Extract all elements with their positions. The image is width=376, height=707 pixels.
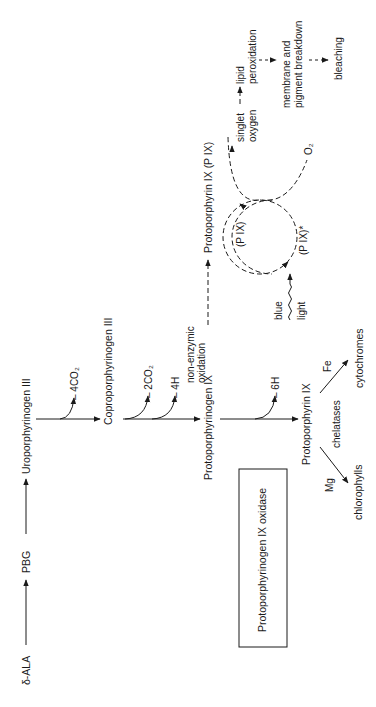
label-blue: blue xyxy=(273,301,284,320)
label-chelatases: chelatases xyxy=(331,400,342,448)
node-ala: δ-ALA xyxy=(20,656,32,685)
arrow-2co2-out xyxy=(125,396,148,419)
node-singlet: singlet xyxy=(235,113,246,142)
node-coproporphyrinogen: Coproporphyrinogen III xyxy=(102,318,114,425)
label-light: light xyxy=(296,301,307,320)
arrow-4co2-out xyxy=(60,398,74,419)
node-uroporphyrinogen: Uroporphyrinogen III xyxy=(20,378,32,474)
node-oxygen: oxygen xyxy=(247,110,258,142)
label-fe: Fe xyxy=(322,360,333,372)
node-pigment-breakdown: pigment breakdown xyxy=(293,21,304,108)
enzyme-box-label: Protoporphyrinogen IX oxidase xyxy=(256,488,268,632)
cycle-o2-arc-2 xyxy=(260,160,307,201)
node-chlorophylls: chlorophylls xyxy=(352,465,364,520)
node-protoporphyrin-pix: Protoporphyrin IX (P IX) xyxy=(202,142,214,253)
label-2co2: – 2CO₂ xyxy=(143,365,154,398)
label-non-enzymic: non-enzymic xyxy=(185,326,196,383)
arrow-mg-chlorophylls xyxy=(320,447,348,483)
cycle-o2-arc xyxy=(228,137,260,200)
label-mg: Mg xyxy=(324,478,335,492)
node-protoporphyrinogen: Protoporphyrinogen IX xyxy=(202,375,214,480)
node-o2: O₂ xyxy=(303,143,314,155)
arrow-4h-out xyxy=(152,396,175,419)
node-lipid: lipid xyxy=(235,66,246,84)
arrow-6h-out xyxy=(255,396,275,419)
node-cytochromes: cytochromes xyxy=(353,328,365,388)
node-membrane: membrane and xyxy=(281,41,292,108)
node-protoporphyrin-ix: Protoporphyrin IX xyxy=(300,383,312,465)
node-pix: (P IX) xyxy=(235,222,246,247)
porphyrin-pathway-diagram: δ-ALA PBG Uroporphyrinogen III – 4CO₂ Co… xyxy=(0,0,376,707)
label-6h: – 6H xyxy=(270,377,281,398)
node-pbg: PBG xyxy=(20,551,32,573)
blue-light-wave-icon xyxy=(289,274,292,320)
label-oxidation: oxidation xyxy=(196,343,207,383)
label-4co2: – 4CO₂ xyxy=(69,367,80,400)
label-4h: – 4H xyxy=(170,377,181,398)
node-pix-excited: (P IX)* xyxy=(298,226,309,255)
node-bleaching: bleaching xyxy=(333,37,344,80)
node-peroxidation: peroxidation xyxy=(247,30,258,84)
